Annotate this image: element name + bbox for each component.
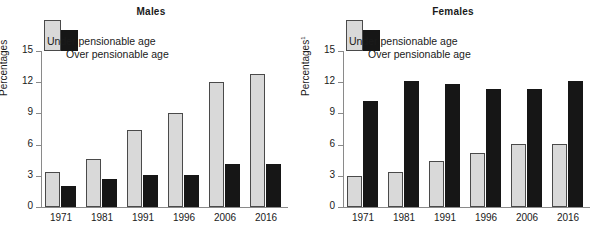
bar-under-pensionable-age — [388, 172, 403, 207]
y-axis-tick-label: 6 — [329, 138, 335, 149]
y-axis-tick-label: 0 — [27, 200, 33, 211]
bar-under-pensionable-age — [429, 161, 444, 207]
y-axis-tick-label: 9 — [27, 106, 33, 117]
y-axis-tick-label: 6 — [27, 138, 33, 149]
y-axis-tick: 6 — [36, 145, 41, 146]
bar-under-pensionable-age — [127, 130, 142, 207]
y-axis-tick: 12 — [36, 82, 41, 83]
bar-group — [347, 51, 378, 207]
y-axis-tick-label: 9 — [329, 106, 335, 117]
y-axis-tick-label: 3 — [27, 169, 33, 180]
bar-under-pensionable-age — [250, 74, 265, 207]
x-axis-tick-label: 2016 — [246, 212, 286, 223]
bar-group — [250, 51, 281, 207]
y-axis-label-males: Percentages — [0, 40, 9, 96]
legend-label-under: Under pensionable age — [349, 35, 458, 47]
x-axis-tick-label: 1996 — [164, 212, 204, 223]
bar-over-pensionable-age — [225, 164, 240, 207]
bar-under-pensionable-age — [470, 153, 485, 207]
y-axis-tick: 15 — [36, 51, 41, 52]
bar-over-pensionable-age — [527, 89, 542, 207]
y-axis-tick: 3 — [36, 176, 41, 177]
bar-over-pensionable-age — [102, 179, 117, 207]
plot-area-males: 03691215 — [41, 51, 287, 207]
x-axis-tick-label: 1971 — [41, 212, 81, 223]
y-axis-tick-label: 15 — [22, 44, 33, 55]
plot-area-females: 03691215 — [343, 51, 589, 207]
bar-under-pensionable-age — [552, 144, 567, 207]
y-axis-label-females: Percentages1 — [300, 37, 311, 97]
bar-under-pensionable-age — [511, 144, 526, 207]
bar-group — [429, 51, 460, 207]
y-axis-tick-label: 3 — [329, 169, 335, 180]
y-axis-label-footnote-marker: 1 — [300, 37, 306, 40]
legend-label-under: Under pensionable age — [47, 35, 156, 47]
bar-over-pensionable-age — [568, 81, 583, 207]
y-axis-tick-label: 12 — [324, 75, 335, 86]
bar-over-pensionable-age — [445, 84, 460, 207]
x-axis-tick-label: 1991 — [123, 212, 163, 223]
chart-title-males: Males — [0, 6, 302, 17]
bar-group — [552, 51, 583, 207]
x-axis-tick-label: 1996 — [466, 212, 506, 223]
x-axis-tick-label: 1991 — [425, 212, 465, 223]
bar-under-pensionable-age — [45, 172, 60, 207]
bar-over-pensionable-age — [363, 101, 378, 207]
bar-group — [86, 51, 117, 207]
y-axis-tick: 12 — [338, 82, 343, 83]
bar-under-pensionable-age — [168, 113, 183, 207]
chart-page: Males Percentages 03691215 Under pension… — [0, 0, 604, 243]
bar-over-pensionable-age — [266, 164, 281, 207]
y-axis-tick-label: 12 — [22, 75, 33, 86]
bar-group — [127, 51, 158, 207]
panel-males: Males Percentages 03691215 Under pension… — [0, 0, 302, 243]
y-axis-tick-label: 15 — [324, 44, 335, 55]
x-axis-tick-label: 2006 — [507, 212, 547, 223]
bar-over-pensionable-age — [184, 175, 199, 207]
panel-females: Females Percentages1 03691215 Under pens… — [302, 0, 604, 243]
bar-group — [388, 51, 419, 207]
y-axis-tick: 9 — [338, 113, 343, 114]
chart-title-females: Females — [302, 6, 604, 17]
y-axis-tick: 0 — [36, 207, 41, 208]
bar-group — [470, 51, 501, 207]
x-axis-tick-label: 1971 — [343, 212, 383, 223]
bar-group — [168, 51, 199, 207]
bar-under-pensionable-age — [347, 176, 362, 207]
bar-over-pensionable-age — [404, 81, 419, 207]
legend-label-over: Over pensionable age — [368, 48, 471, 60]
y-axis-tick: 9 — [36, 113, 41, 114]
bar-over-pensionable-age — [486, 89, 501, 207]
bar-group — [45, 51, 76, 207]
x-axis-tick-label: 2006 — [205, 212, 245, 223]
bar-over-pensionable-age — [61, 186, 76, 207]
bar-group — [209, 51, 240, 207]
bar-group — [511, 51, 542, 207]
y-axis-tick: 3 — [338, 176, 343, 177]
legend-label-over: Over pensionable age — [66, 48, 169, 60]
x-axis-line-males — [41, 207, 288, 208]
x-axis-tick-label: 1981 — [384, 212, 424, 223]
y-axis-tick: 6 — [338, 145, 343, 146]
x-axis-line-females — [343, 207, 590, 208]
x-axis-tick-label: 2016 — [548, 212, 588, 223]
bar-under-pensionable-age — [86, 159, 101, 207]
bar-over-pensionable-age — [143, 175, 158, 207]
y-axis-tick-label: 0 — [329, 200, 335, 211]
y-axis-tick: 0 — [338, 207, 343, 208]
y-axis-tick: 15 — [338, 51, 343, 52]
x-axis-tick-label: 1981 — [82, 212, 122, 223]
bar-under-pensionable-age — [209, 82, 224, 207]
